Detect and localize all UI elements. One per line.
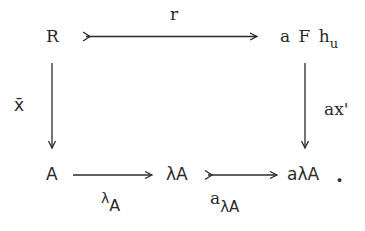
label-bottom-first-subscript: A (109, 196, 120, 215)
left-arrow (49, 63, 56, 148)
label-top-arrow: r (170, 6, 178, 23)
label-bottom-second-subscript: λA (220, 198, 239, 216)
top-arrow (83, 32, 257, 41)
bottom-second-arrow (205, 171, 277, 180)
label-bottom-second-base: a (210, 188, 220, 208)
node-top-right-subscript: u (330, 36, 338, 51)
node-bottom-right: aλA (287, 166, 319, 183)
terminal-period: . (336, 165, 343, 185)
right-arrow (302, 63, 309, 148)
node-top-right-base: a F h (280, 26, 330, 46)
label-right-arrow: ax' (324, 101, 348, 118)
node-bottom-left: A (46, 166, 58, 183)
label-left-arrow: x̄ (14, 97, 24, 114)
node-top-left: R (46, 28, 59, 45)
label-bottom-second-arrow: aλA (210, 190, 239, 207)
bottom-first-arrow (73, 172, 152, 179)
node-bottom-middle: λA (166, 166, 188, 183)
label-bottom-first-arrow: λA (101, 190, 120, 206)
node-top-right: a F hu (280, 28, 338, 45)
